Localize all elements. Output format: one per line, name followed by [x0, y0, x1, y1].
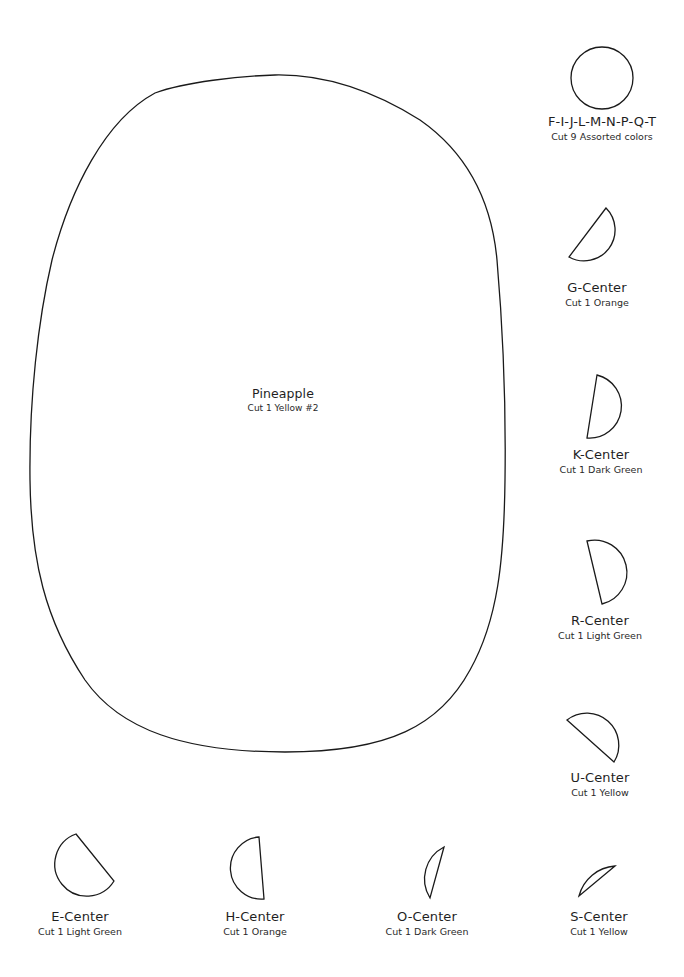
h-center-label: H-Center Cut 1 Orange: [223, 909, 287, 938]
piece-name: U-Center: [571, 770, 630, 786]
piece-name: G-Center: [565, 280, 629, 296]
circle-piece-label: F-I-J-L-M-N-P-Q-T Cut 9 Assorted colors: [548, 114, 656, 143]
cut-instruction: Cut 1 Yellow: [571, 786, 630, 799]
r-center-label: R-Center Cut 1 Light Green: [558, 613, 642, 642]
o-center-label: O-Center Cut 1 Dark Green: [386, 909, 469, 938]
u-center-outline: [567, 713, 619, 762]
piece-name: K-Center: [560, 447, 643, 463]
e-center-label: E-Center Cut 1 Light Green: [38, 909, 122, 938]
k-center-label: K-Center Cut 1 Dark Green: [560, 447, 643, 476]
cut-instruction: Cut 1 Yellow #2: [248, 402, 319, 415]
piece-name: O-Center: [386, 909, 469, 925]
cut-instruction: Cut 1 Orange: [565, 296, 629, 309]
cut-instruction: Cut 1 Orange: [223, 925, 287, 938]
cut-instruction: Cut 9 Assorted colors: [548, 130, 656, 143]
cut-instruction: Cut 1 Dark Green: [386, 925, 469, 938]
piece-name: H-Center: [223, 909, 287, 925]
piece-name: Pineapple: [248, 386, 319, 402]
u-center-label: U-Center Cut 1 Yellow: [571, 770, 630, 799]
cut-instruction: Cut 1 Yellow: [570, 925, 628, 938]
piece-name: S-Center: [570, 909, 628, 925]
cut-instruction: Cut 1 Light Green: [558, 629, 642, 642]
h-center-outline: [230, 837, 264, 899]
cut-instruction: Cut 1 Dark Green: [560, 463, 643, 476]
o-center-outline: [425, 847, 444, 898]
cut-instruction: Cut 1 Light Green: [38, 925, 122, 938]
g-center-outline: [569, 208, 615, 261]
piece-name: F-I-J-L-M-N-P-Q-T: [548, 114, 656, 130]
piece-name: E-Center: [38, 909, 122, 925]
r-center-outline: [587, 540, 627, 604]
g-center-label: G-Center Cut 1 Orange: [565, 280, 629, 309]
pineapple-label: Pineapple Cut 1 Yellow #2: [248, 386, 319, 415]
pattern-shapes: [0, 0, 684, 977]
s-center-label: S-Center Cut 1 Yellow: [570, 909, 628, 938]
e-center-outline: [55, 834, 114, 896]
circle-piece-outline: [571, 47, 633, 109]
s-center-outline: [579, 866, 615, 896]
piece-name: R-Center: [558, 613, 642, 629]
k-center-outline: [587, 375, 621, 438]
